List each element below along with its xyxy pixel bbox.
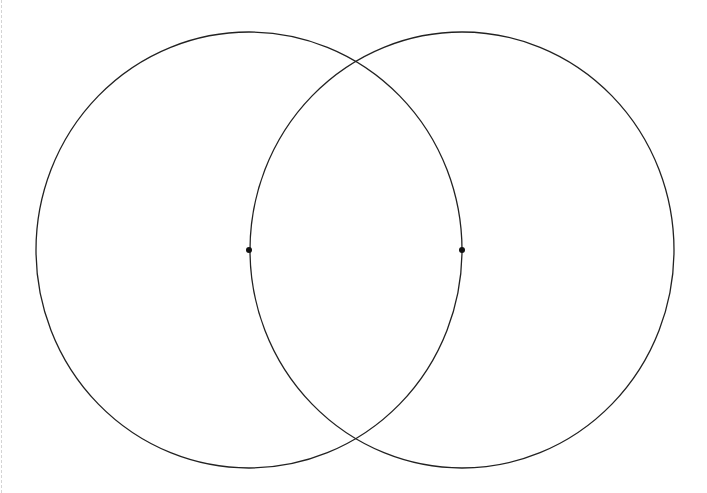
right-center-point (459, 247, 465, 253)
diagram-canvas (0, 0, 707, 493)
left-center-point (246, 247, 252, 253)
